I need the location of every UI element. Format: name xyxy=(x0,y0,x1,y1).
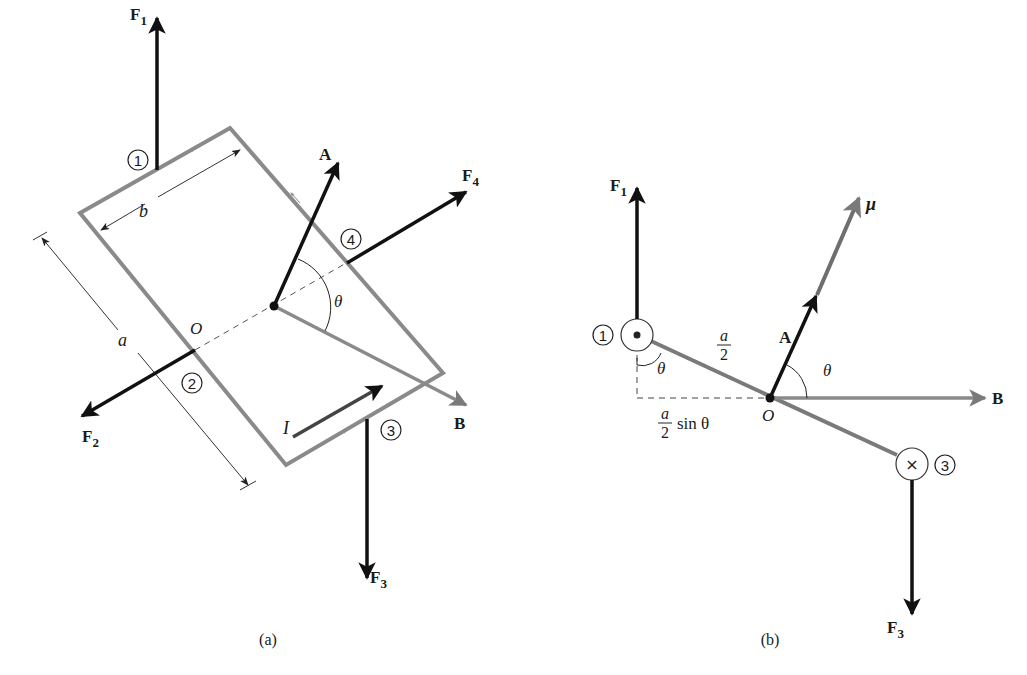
center-dot-b xyxy=(766,394,775,403)
side-marker-4-a: 4 xyxy=(341,229,361,249)
svg-text:2: 2 xyxy=(188,375,196,392)
label-mu: μ xyxy=(865,194,876,214)
svg-text:3: 3 xyxy=(387,422,395,439)
vector-F4-a xyxy=(347,192,466,263)
svg-text:a: a xyxy=(661,405,669,422)
side-marker-2-a: 2 xyxy=(182,373,202,393)
vector-F2-a xyxy=(82,350,195,416)
svg-text:1: 1 xyxy=(134,152,142,169)
panel-a: F1 F2 F3 F4 A B O θ a b I 1 2 3 4 (a) xyxy=(33,5,479,649)
label-F3-a: F3 xyxy=(370,568,387,591)
vector-A-a xyxy=(274,163,338,306)
label-a-over-2-sin-theta: a 2 sin θ xyxy=(658,405,709,441)
label-F3-b: F3 xyxy=(887,618,904,641)
vector-mu xyxy=(817,198,859,295)
side-marker-3-a: 3 xyxy=(381,420,401,440)
label-O-a: O xyxy=(190,319,202,338)
svg-text:sin θ: sin θ xyxy=(677,414,709,433)
theta-arc-right xyxy=(787,365,807,398)
svg-text:2: 2 xyxy=(661,424,669,441)
label-a-over-2: a 2 xyxy=(717,327,731,363)
caption-b: (b) xyxy=(761,631,780,649)
label-F1-b: F1 xyxy=(610,176,627,199)
label-B-b: B xyxy=(992,389,1003,408)
label-theta-a: θ xyxy=(334,292,342,311)
caption-a: (a) xyxy=(259,631,277,649)
svg-text:3: 3 xyxy=(941,457,949,474)
side-marker-3-b: 3 xyxy=(935,455,955,475)
label-theta-right: θ xyxy=(823,361,831,380)
side-marker-1-a: 1 xyxy=(128,150,148,170)
label-b: b xyxy=(139,201,148,221)
panel-b: × F1 F3 μ A B O θ θ a 2 a 2 sin θ 1 xyxy=(593,176,1003,649)
label-O-b: O xyxy=(762,406,774,425)
label-A-a: A xyxy=(319,145,332,164)
figure-canvas: F1 F2 F3 F4 A B O θ a b I 1 2 3 4 (a) xyxy=(0,0,1027,675)
dimension-a xyxy=(33,232,256,490)
label-A-b: A xyxy=(779,328,792,347)
center-dot-a xyxy=(270,302,279,311)
label-F1-a: F1 xyxy=(130,5,147,28)
label-theta-left: θ xyxy=(657,359,665,378)
label-F2-a: F2 xyxy=(82,427,99,450)
label-B-a: B xyxy=(454,414,465,433)
svg-text:×: × xyxy=(905,455,918,474)
side-marker-1-b: 1 xyxy=(593,325,613,345)
conductor-1-out-of-page xyxy=(621,319,653,351)
svg-text:2: 2 xyxy=(720,346,728,363)
svg-text:1: 1 xyxy=(599,327,607,344)
conductor-3-into-page: × xyxy=(896,448,928,480)
vector-A-b xyxy=(770,296,816,398)
label-I: I xyxy=(282,418,290,438)
vector-B-a xyxy=(274,306,466,405)
svg-text:4: 4 xyxy=(347,231,355,248)
label-a: a xyxy=(118,330,127,350)
label-F4-a: F4 xyxy=(462,166,479,189)
svg-text:a: a xyxy=(720,327,728,344)
current-loop xyxy=(80,128,443,465)
